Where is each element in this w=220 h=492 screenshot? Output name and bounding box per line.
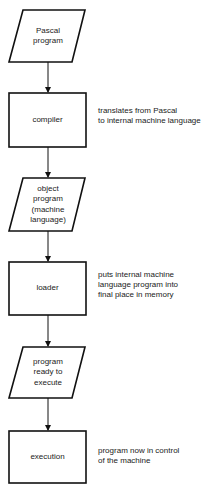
label-line: loader (36, 283, 58, 294)
label-line: language) (30, 215, 66, 226)
node-label-pascal-program: Pascal program (16, 10, 80, 62)
note-line: of the machine (98, 456, 179, 466)
note-line: final place in memory (98, 290, 178, 300)
note-compiler: translates from Pascal to internal machi… (98, 106, 201, 126)
note-loader: puts internal machine language program i… (98, 270, 178, 300)
node-label-execution: execution (9, 431, 86, 483)
note-line: language program into (98, 280, 178, 290)
note-line: program now in control (98, 446, 179, 456)
node-label-program-ready: program ready to execute (16, 347, 80, 398)
node-label-loader: loader (9, 262, 86, 315)
flowchart: Pascal program compiler object program (… (0, 0, 220, 492)
label-line: (machine (32, 205, 65, 216)
note-line: translates from Pascal (98, 106, 201, 116)
note-line: puts internal machine (98, 270, 178, 280)
label-line: compiler (32, 115, 62, 126)
note-execution: program now in control of the machine (98, 446, 179, 466)
label-line: execute (34, 378, 62, 389)
label-line: ready to (34, 367, 63, 378)
label-line: program (33, 36, 63, 47)
label-line: program (33, 357, 63, 368)
flowchart-shapes (0, 0, 220, 492)
label-line: program (33, 194, 63, 205)
note-line: to internal machine language (98, 116, 201, 126)
label-line: Pascal (36, 26, 60, 37)
label-line: execution (30, 452, 64, 463)
label-line: object (37, 184, 58, 195)
node-label-compiler: compiler (9, 93, 86, 147)
node-label-object-program: object program (machine language) (16, 178, 80, 231)
